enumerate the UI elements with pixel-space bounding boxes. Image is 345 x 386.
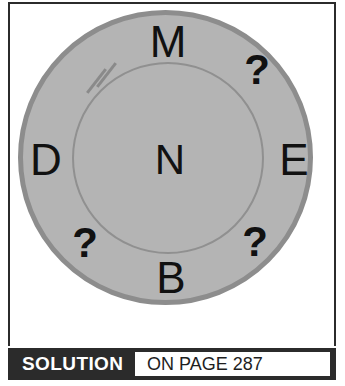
wheel-cell-top-right: ? <box>244 49 270 91</box>
wheel-cell-top: M <box>150 20 187 64</box>
wheel-cell-center: N <box>155 139 185 181</box>
wheel-cell-right: E <box>279 138 308 182</box>
solution-page-box: ON PAGE 287 <box>135 352 330 376</box>
solution-label: SOLUTION <box>22 348 123 380</box>
wheel-cell-bottom: B <box>156 256 185 300</box>
puzzle-page: M ? E ? B ? D N SOLUTION ON PAGE 287 <box>0 0 345 386</box>
solution-page-reference: ON PAGE 287 <box>147 352 263 376</box>
wheel-cell-bottom-right: ? <box>242 221 268 263</box>
wheel-cell-left: D <box>30 138 62 182</box>
letter-wheel-diagram: M ? E ? B ? D N <box>10 4 334 342</box>
page-border-right <box>334 2 336 346</box>
wheel-cell-bottom-left: ? <box>72 222 98 264</box>
solution-bar: SOLUTION ON PAGE 287 <box>8 348 336 380</box>
